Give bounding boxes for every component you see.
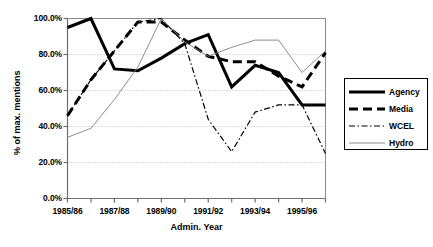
chart-legend: AgencyMediaWCELHydro bbox=[344, 78, 428, 150]
legend-swatch-agency-icon bbox=[348, 86, 386, 98]
x-axis-tick-label: 1989/90 bbox=[135, 206, 187, 216]
y-axis-tick-label: 100.0% bbox=[18, 13, 62, 23]
series-line-hydro bbox=[68, 19, 326, 138]
y-axis-title: % of max. mentions bbox=[12, 70, 22, 155]
legend-label: Agency bbox=[389, 87, 420, 97]
legend-label: Media bbox=[389, 104, 413, 114]
legend-item-agency[interactable]: Agency bbox=[345, 83, 429, 101]
x-axis-tick-label: 1987/88 bbox=[88, 206, 140, 216]
x-axis-tick-label: 1993/94 bbox=[229, 206, 281, 216]
y-axis-tick-label: 60.0% bbox=[18, 85, 62, 95]
x-axis-tick-label: 1985/86 bbox=[42, 206, 94, 216]
y-axis-tick-label: 20.0% bbox=[18, 157, 62, 167]
y-axis-tick-label: 40.0% bbox=[18, 121, 62, 131]
legend-swatch-media-icon bbox=[348, 103, 386, 115]
legend-label: Hydro bbox=[389, 138, 414, 148]
legend-item-wcel[interactable]: WCEL bbox=[345, 117, 429, 135]
x-axis-tick-label: 1995/96 bbox=[276, 206, 328, 216]
legend-label: WCEL bbox=[389, 121, 414, 131]
y-axis-tick-label: 0.0% bbox=[18, 193, 62, 203]
legend-item-hydro[interactable]: Hydro bbox=[345, 134, 429, 152]
x-axis-title: Admin. Year bbox=[68, 222, 326, 232]
series-line-media bbox=[68, 22, 326, 116]
legend-swatch-wcel-icon bbox=[348, 120, 386, 132]
x-axis-tick-label: 1991/92 bbox=[182, 206, 234, 216]
chart-figure: 0.0%20.0%40.0%60.0%80.0%100.0%1985/86198… bbox=[0, 0, 433, 247]
y-axis-tick-label: 80.0% bbox=[18, 49, 62, 59]
legend-swatch-hydro-icon bbox=[348, 137, 386, 149]
legend-item-media[interactable]: Media bbox=[345, 100, 429, 118]
